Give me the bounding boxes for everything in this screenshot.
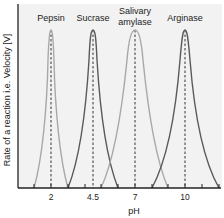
sucrase-label: Sucrase: [76, 13, 109, 23]
arginase-label: Arginase: [167, 13, 203, 23]
tick-label-7: 7: [133, 192, 138, 202]
pepsin-label: Pepsin: [37, 13, 65, 23]
plot-area: [18, 4, 222, 188]
amylase-label-line1: Salivary: [119, 6, 152, 16]
x-axis-label: pH: [128, 206, 140, 216]
tick-label-4-5: 4.5: [87, 192, 99, 202]
amylase-label-line2: amylase: [118, 17, 152, 27]
tick-label-10: 10: [180, 192, 190, 202]
y-axis-label: Rate of a reaction i.e. Velocity [V]: [2, 34, 12, 167]
tick-label-2: 2: [49, 192, 54, 202]
enzyme-ph-chart: 2 4.5 7 10 pH Rate of a reaction i.e. Ve…: [0, 0, 224, 218]
